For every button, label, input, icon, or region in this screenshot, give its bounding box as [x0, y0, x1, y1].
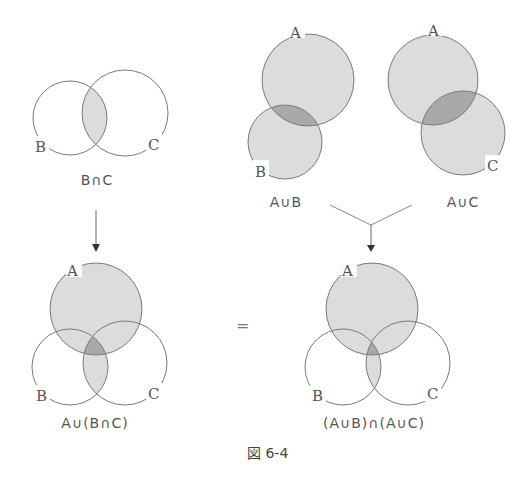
label-b: B	[255, 163, 266, 181]
label-b: B	[36, 387, 47, 405]
merge-connector-arrow	[330, 205, 412, 252]
panel-a-union-b-intersect-c: A B C A∪(B∩C)	[32, 260, 167, 431]
label-b: B	[312, 387, 323, 405]
panel-title: A∪B	[270, 194, 302, 210]
figure-caption: 図 6-4	[247, 445, 288, 461]
label-a: A	[66, 262, 78, 280]
panel-title: A∪C	[447, 194, 480, 210]
label-c: C	[148, 136, 159, 154]
label-c: C	[427, 385, 438, 403]
label-b: B	[35, 138, 46, 156]
panel-b-intersect-c: B C B∩C	[33, 70, 168, 188]
label-c: C	[487, 157, 498, 175]
panel-a-union-b-intersect-a-union-c: A B C (A∪B)∩(A∪C)	[305, 260, 450, 431]
panel-a-union-c: A C A∪C	[388, 20, 505, 210]
label-a: A	[427, 22, 439, 40]
panel-a-union-b: A B A∪B	[248, 22, 354, 210]
equals-sign: =	[236, 316, 249, 335]
arrow-down-left	[92, 210, 100, 252]
venn-diagram-figure: B C B∩C A B A∪B A C A∪C	[0, 0, 530, 477]
label-a: A	[289, 24, 301, 42]
panel-title: B∩C	[81, 172, 114, 188]
panel-title: (A∪B)∩(A∪C)	[323, 415, 425, 431]
label-c: C	[148, 385, 159, 403]
label-a: A	[341, 262, 353, 280]
panel-title: A∪(B∩C)	[61, 415, 128, 431]
